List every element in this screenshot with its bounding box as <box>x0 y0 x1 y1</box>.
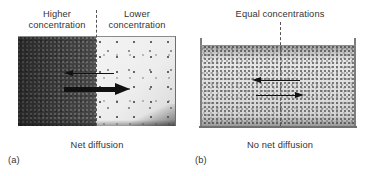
low-concentration-region <box>96 37 176 126</box>
arrow-head-right-icon <box>115 83 130 95</box>
arrow-shaft <box>71 73 114 74</box>
panel-a: Higher concentration Lower concentration… <box>0 0 187 176</box>
arrow-shaft <box>259 80 300 81</box>
concentration-container-b <box>200 46 356 126</box>
rightward-flux-arrow-b <box>256 91 304 100</box>
membrane-divider-b <box>280 22 281 126</box>
lower-concentration-label: Lower concentration <box>97 9 177 31</box>
arrow-shaft <box>64 87 116 92</box>
panel-b-letter: (b) <box>195 155 207 165</box>
equal-concentrations-label: Equal concentrations <box>200 9 360 20</box>
panel-a-caption: Net diffusion <box>18 140 176 150</box>
fluid-surface-line <box>200 45 356 46</box>
container-wall-right <box>354 38 356 128</box>
container-floor-shadow <box>200 116 356 126</box>
rightward-flux-arrow-a <box>64 83 130 96</box>
density-gradient-overlay <box>18 37 96 126</box>
container-wall-left <box>200 38 202 128</box>
membrane-divider-a <box>96 10 97 126</box>
arrow-shaft <box>256 95 297 96</box>
higher-concentration-label: Higher concentration <box>18 9 96 31</box>
panel-b-caption: No net diffusion <box>200 140 360 150</box>
arrow-head-right-icon <box>295 92 304 98</box>
high-concentration-region <box>18 37 96 126</box>
leftward-flux-arrow-a <box>64 69 114 78</box>
leftward-flux-arrow-b <box>252 76 300 85</box>
container-floor-line <box>199 126 357 128</box>
concentration-container-a <box>18 36 176 126</box>
diffusion-figure: Higher concentration Lower concentration… <box>0 0 374 176</box>
surface-shadow <box>200 46 356 60</box>
panel-a-letter: (a) <box>8 155 20 165</box>
